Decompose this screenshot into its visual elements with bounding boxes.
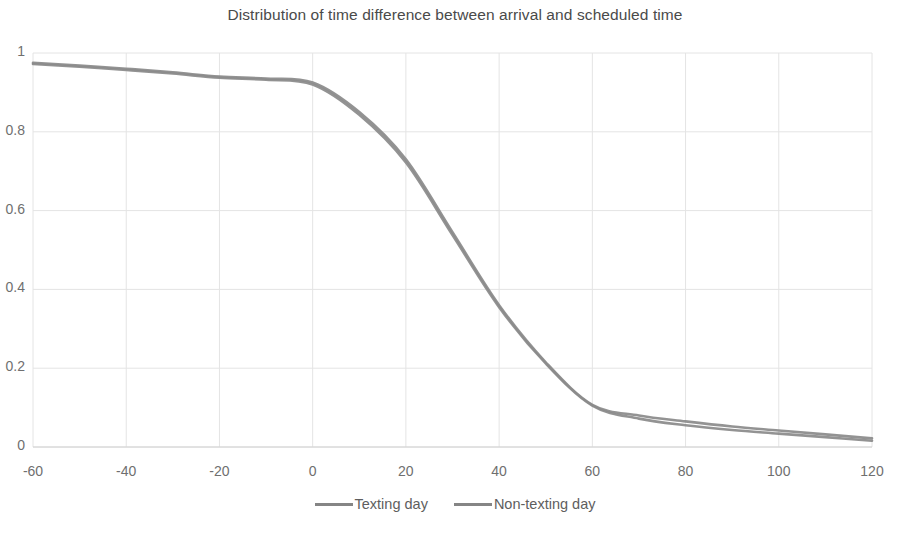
x-axis-tick-label: 120 [842, 463, 902, 479]
legend-item-texting-day[interactable]: Texting day [315, 496, 428, 512]
x-axis-tick-label: -60 [3, 463, 63, 479]
x-axis-tick-label: 0 [283, 463, 343, 479]
legend-item-label: Texting day [355, 496, 428, 512]
x-axis-tick-label: 40 [469, 463, 529, 479]
y-axis-tick-label: 0.8 [6, 122, 25, 138]
x-axis-tick-label: 20 [376, 463, 436, 479]
y-axis-tick-label: 0.2 [6, 358, 25, 374]
chart-legend: Texting day Non-texting day [0, 496, 910, 512]
y-axis-tick-label: 0.6 [6, 201, 25, 217]
x-axis-tick-label: -40 [96, 463, 156, 479]
series-line-2 [33, 64, 872, 441]
series-line-1 [33, 63, 872, 438]
y-axis-tick-label: 0 [17, 437, 25, 453]
legend-item-non-texting-day[interactable]: Non-texting day [454, 496, 596, 512]
legend-line-swatch-icon [315, 503, 353, 506]
chart-container: Distribution of time difference between … [0, 0, 910, 546]
legend-line-swatch-icon [454, 503, 492, 506]
x-axis-tick-label: 80 [656, 463, 716, 479]
x-axis-tick-label: 60 [562, 463, 622, 479]
x-axis-tick-label: -20 [189, 463, 249, 479]
y-axis-tick-label: 1 [17, 43, 25, 59]
y-axis-tick-label: 0.4 [6, 279, 25, 295]
legend-item-label: Non-texting day [494, 496, 596, 512]
x-axis-tick-label: 100 [749, 463, 809, 479]
